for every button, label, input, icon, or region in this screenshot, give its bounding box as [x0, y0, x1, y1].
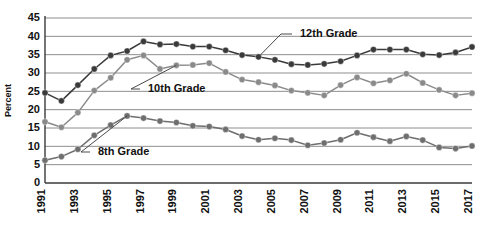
y-tick-label: 45 [28, 11, 40, 23]
y-axis-title: Percent [3, 84, 13, 117]
data-point[interactable] [370, 80, 376, 86]
data-point[interactable] [321, 61, 327, 67]
data-point[interactable] [223, 126, 229, 132]
data-point[interactable] [206, 44, 212, 50]
data-point[interactable] [140, 115, 146, 121]
data-point[interactable] [469, 143, 475, 149]
x-tick-label: 1997 [134, 189, 146, 213]
data-point[interactable] [436, 87, 442, 93]
series-1 [42, 38, 475, 104]
y-tick-label: 15 [28, 121, 40, 133]
x-tick-label: 2011 [363, 189, 375, 213]
data-point[interactable] [403, 71, 409, 77]
data-point[interactable] [75, 82, 81, 88]
data-point[interactable] [42, 119, 48, 125]
data-point[interactable] [321, 92, 327, 98]
data-point[interactable] [91, 66, 97, 72]
data-point[interactable] [157, 66, 163, 72]
data-point[interactable] [387, 77, 393, 83]
data-point[interactable] [239, 77, 245, 83]
data-point[interactable] [140, 52, 146, 58]
data-point[interactable] [255, 137, 261, 143]
data-point[interactable] [42, 90, 48, 96]
data-point[interactable] [420, 137, 426, 143]
data-point[interactable] [288, 137, 294, 143]
data-point[interactable] [420, 80, 426, 86]
x-tick-label: 2009 [331, 189, 343, 213]
data-point[interactable] [452, 49, 458, 55]
data-point[interactable] [206, 123, 212, 129]
data-point[interactable] [387, 138, 393, 144]
data-point[interactable] [387, 46, 393, 52]
data-point[interactable] [338, 82, 344, 88]
data-point[interactable] [91, 132, 97, 138]
x-tick-label: 2007 [298, 189, 310, 213]
y-tick-label: 20 [28, 103, 40, 115]
data-point[interactable] [436, 52, 442, 58]
data-point[interactable] [223, 69, 229, 75]
data-point[interactable] [469, 44, 475, 50]
data-point[interactable] [288, 88, 294, 94]
data-point[interactable] [124, 57, 130, 63]
data-point[interactable] [75, 146, 81, 152]
series-label: 8th Grade [98, 145, 149, 157]
x-tick-label: 2017 [462, 189, 474, 213]
data-point[interactable] [58, 98, 64, 104]
data-point[interactable] [272, 57, 278, 63]
data-point[interactable] [354, 52, 360, 58]
data-point[interactable] [469, 90, 475, 96]
data-point[interactable] [338, 137, 344, 143]
data-point[interactable] [436, 144, 442, 150]
data-point[interactable] [58, 124, 64, 130]
data-point[interactable] [305, 62, 311, 68]
data-point[interactable] [321, 140, 327, 146]
y-tick-label: 10 [28, 140, 40, 152]
x-tick-label: 2001 [199, 189, 211, 213]
data-point[interactable] [272, 82, 278, 88]
data-point[interactable] [58, 154, 64, 160]
data-point[interactable] [75, 110, 81, 116]
data-point[interactable] [288, 61, 294, 67]
data-point[interactable] [108, 52, 114, 58]
data-point[interactable] [452, 145, 458, 151]
data-point[interactable] [108, 75, 114, 81]
data-point[interactable] [124, 48, 130, 54]
data-point[interactable] [140, 38, 146, 44]
data-point[interactable] [354, 74, 360, 80]
x-tick-label: 1993 [68, 189, 80, 213]
data-point[interactable] [452, 92, 458, 98]
data-point[interactable] [305, 90, 311, 96]
data-point[interactable] [190, 123, 196, 129]
x-tick-label: 2013 [396, 189, 408, 213]
data-point[interactable] [91, 88, 97, 94]
data-point[interactable] [354, 130, 360, 136]
callout-leader-line [259, 34, 293, 57]
series-callout: 12th Grade [259, 27, 358, 57]
data-point[interactable] [305, 142, 311, 148]
data-point[interactable] [403, 46, 409, 52]
x-tick-label: 1995 [101, 189, 113, 213]
data-point[interactable] [370, 134, 376, 140]
y-tick-label: 25 [28, 85, 40, 97]
data-point[interactable] [157, 118, 163, 124]
data-point[interactable] [190, 44, 196, 50]
data-point[interactable] [272, 135, 278, 141]
data-point[interactable] [420, 51, 426, 57]
data-point[interactable] [42, 157, 48, 163]
data-point[interactable] [239, 52, 245, 58]
data-point[interactable] [173, 41, 179, 47]
data-point[interactable] [239, 133, 245, 139]
y-tick-label: 30 [28, 66, 40, 78]
data-point[interactable] [255, 79, 261, 85]
y-tick-label: 0 [34, 176, 40, 188]
data-point[interactable] [370, 46, 376, 52]
data-point[interactable] [223, 47, 229, 53]
data-point[interactable] [338, 58, 344, 64]
data-point[interactable] [206, 60, 212, 66]
data-point[interactable] [157, 41, 163, 47]
data-point[interactable] [173, 119, 179, 125]
y-tick-label: 35 [28, 48, 40, 60]
data-point[interactable] [403, 133, 409, 139]
series-label: 10th Grade [148, 82, 205, 94]
data-point[interactable] [190, 62, 196, 68]
